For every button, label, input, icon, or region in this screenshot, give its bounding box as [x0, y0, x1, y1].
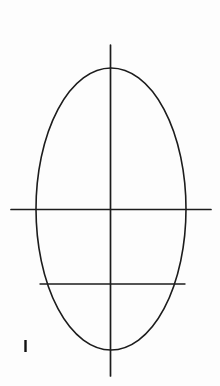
diagram-canvas	[0, 0, 220, 386]
ellipse-diagram	[0, 0, 220, 386]
